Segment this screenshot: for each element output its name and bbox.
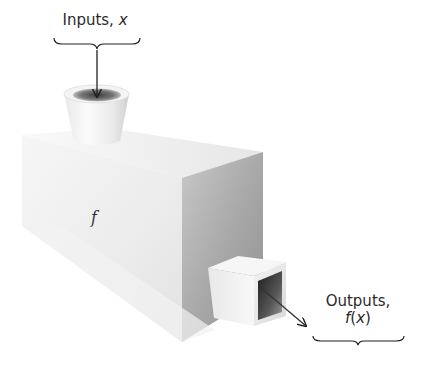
output-spout-side (208, 268, 254, 326)
inputs-label-text: Inputs, (62, 11, 118, 29)
input-brace (54, 38, 140, 49)
output-expression: f(x) (312, 310, 404, 327)
outputs-label-text: Outputs, (312, 293, 404, 310)
output-variable: x (356, 309, 365, 327)
output-brace (313, 336, 404, 345)
input-variable: x (119, 11, 128, 29)
machine-function-label: f (91, 208, 97, 227)
inputs-label: Inputs, x (54, 12, 136, 29)
output-close-paren: ) (365, 309, 371, 327)
outputs-label: Outputs, f(x) (312, 293, 404, 327)
function-machine-diagram: Inputs, x Outputs, f(x) f (0, 0, 428, 368)
